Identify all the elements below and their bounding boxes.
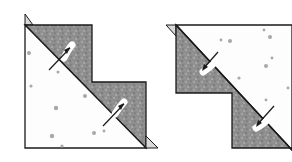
dogear-top-left <box>25 14 33 25</box>
left-unit <box>25 14 158 148</box>
dogear-bottom-right <box>146 136 158 148</box>
quilt-diagram: Two quilt half-square triangle units sew… <box>0 0 292 162</box>
right-unit <box>166 25 292 150</box>
quilt-illustration <box>0 0 292 162</box>
dogear-top-left-right <box>166 25 176 36</box>
